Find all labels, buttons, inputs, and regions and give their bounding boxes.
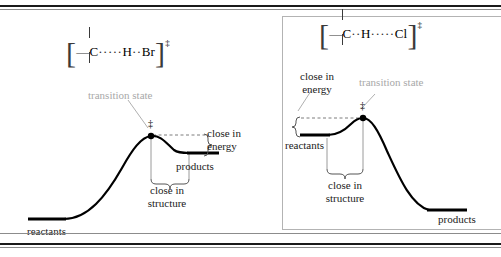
transition-state-dot [360,115,366,121]
transition-state-dagger-symbol: ‡ [148,118,153,129]
transition-state-dot [148,133,154,139]
close-in-energy-brace [292,117,300,137]
close-in-structure-line2: structure [137,197,197,210]
close-in-energy-line2: energy [207,140,261,153]
energy-diagram-left: ‡ [0,16,262,230]
close-in-energy-line1: close in [207,127,261,140]
transition-state-label-left: transition state [88,89,152,102]
close-in-energy-label-left: close in energy [207,127,261,153]
bottom-rule-upper [0,243,501,245]
panel-right-exothermic: [—C··H·····Cl]‡ ‡ close in energy transi… [282,16,501,230]
reactants-label-left: reactants [27,225,66,238]
panel-left-endothermic: [—C·····H··Br]‡ ‡ transition state close… [0,16,262,230]
close-in-structure-line2: structure [315,192,375,205]
transition-state-leader-line [128,100,148,128]
top-rule-lower [0,9,501,10]
transition-state-label-right: transition state [359,76,423,89]
reactants-label-right: reactants [285,139,324,152]
close-in-structure-label-right: close in structure [315,179,375,205]
bottom-rule-lower [0,247,501,248]
top-rule-upper [0,5,501,7]
close-in-structure-line1: close in [137,184,197,197]
close-in-energy-line1: close in [292,70,342,83]
bottom-rule-separator [0,233,501,234]
products-label-left: products [176,160,214,173]
close-in-structure-brace [327,169,363,179]
close-in-structure-label-left: close in structure [137,184,197,210]
transition-state-dagger-symbol: ‡ [360,100,365,111]
products-label-right: products [438,213,476,226]
close-in-structure-line1: close in [315,179,375,192]
close-in-energy-line2: energy [292,83,342,96]
close-in-energy-label-right: close in energy [292,70,342,96]
